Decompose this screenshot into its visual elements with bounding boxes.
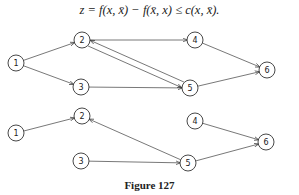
svg-text:4: 4 xyxy=(192,36,197,45)
node-4: 4 xyxy=(187,113,203,129)
svg-text:3: 3 xyxy=(78,83,83,92)
node-4: 4 xyxy=(187,32,203,48)
edge-3-5 xyxy=(89,161,180,163)
edge-3-5 xyxy=(89,87,182,88)
node-5: 5 xyxy=(180,155,196,171)
svg-text:1: 1 xyxy=(13,129,18,138)
svg-text:1: 1 xyxy=(13,59,18,68)
node-2: 2 xyxy=(74,108,90,124)
svg-text:3: 3 xyxy=(78,157,83,166)
edge-4-6 xyxy=(202,43,259,67)
svg-text:5: 5 xyxy=(187,84,192,93)
edge-5-6 xyxy=(198,72,259,86)
svg-text:2: 2 xyxy=(79,36,84,45)
top-graph: 123456 xyxy=(8,32,275,96)
bottom-graph: 123456 xyxy=(8,108,274,171)
node-3: 3 xyxy=(73,79,89,95)
edge-5-2 xyxy=(89,119,180,160)
figure-caption: Figure 127 xyxy=(0,179,299,191)
node-6: 6 xyxy=(259,62,275,78)
edge-1-3 xyxy=(24,66,74,84)
node-5: 5 xyxy=(182,80,198,96)
edge-5-2 xyxy=(91,41,184,83)
svg-text:6: 6 xyxy=(263,138,268,147)
edge-1-2 xyxy=(24,118,75,131)
node-3: 3 xyxy=(73,153,89,169)
edge-2-5 xyxy=(88,46,181,88)
svg-text:4: 4 xyxy=(192,117,197,126)
svg-text:2: 2 xyxy=(79,112,84,121)
edge-1-2 xyxy=(24,43,75,61)
svg-text:6: 6 xyxy=(264,66,269,75)
node-6: 6 xyxy=(258,134,274,150)
edge-4-6 xyxy=(203,123,259,139)
edge-5-6 xyxy=(196,144,259,161)
node-2: 2 xyxy=(74,32,90,48)
node-1: 1 xyxy=(8,125,24,141)
network-diagram: 123456123456 xyxy=(0,0,299,195)
node-1: 1 xyxy=(8,55,24,71)
svg-text:5: 5 xyxy=(185,159,190,168)
